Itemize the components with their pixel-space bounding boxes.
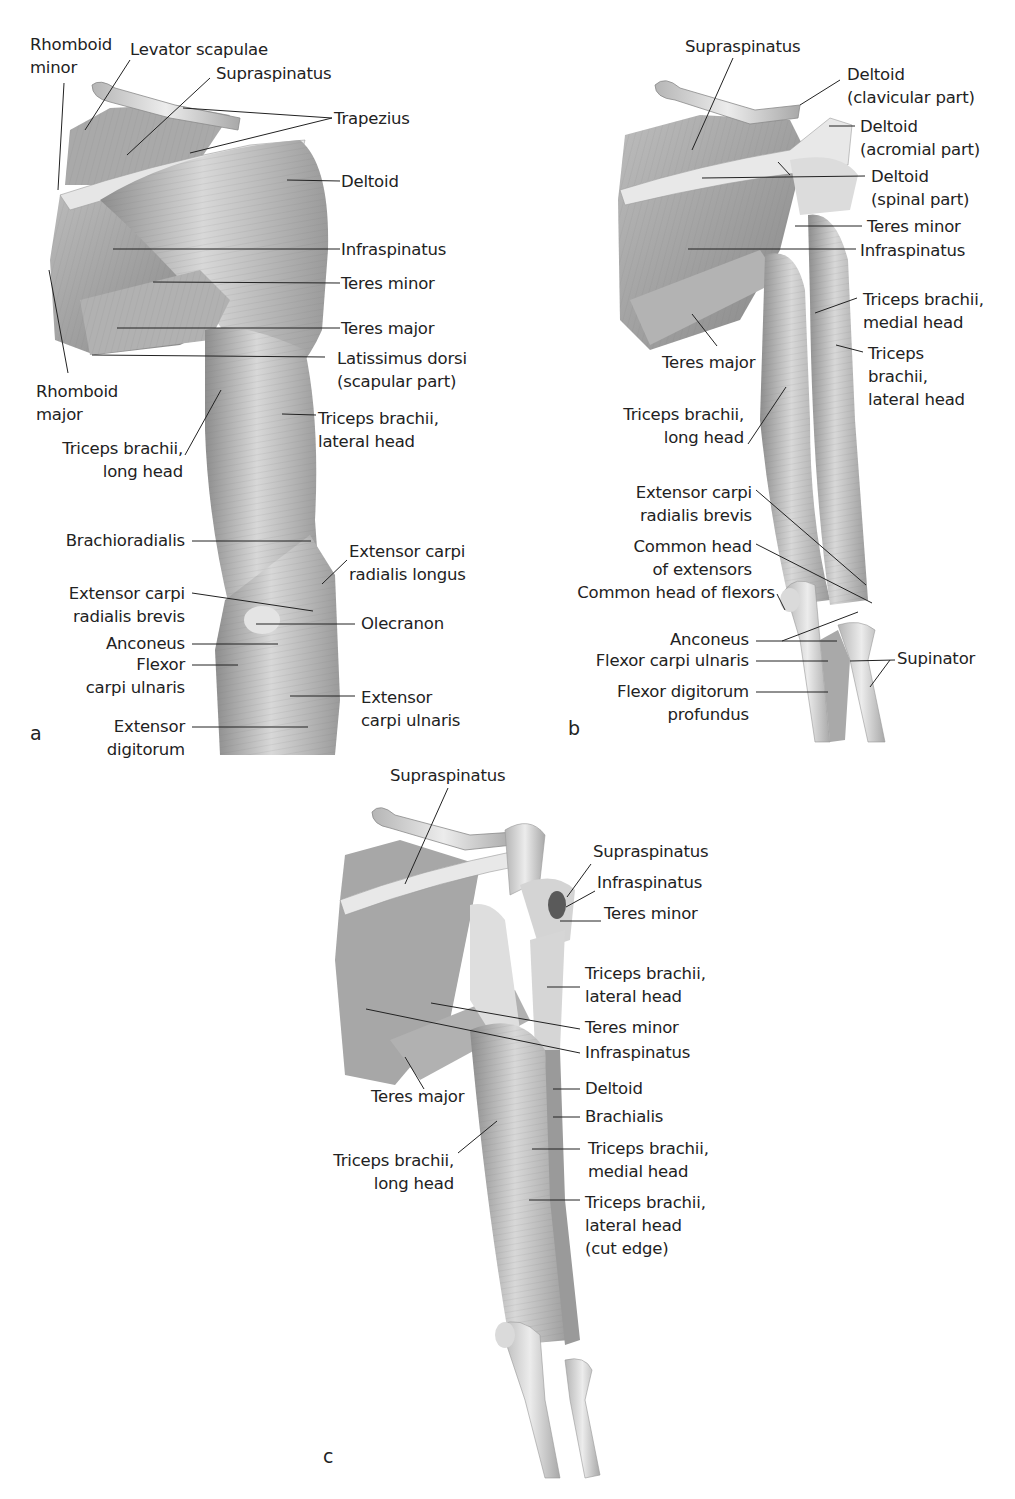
- label-c-supraspinatus: Supraspinatus: [593, 840, 708, 863]
- label-b-infraspinatus: Infraspinatus: [860, 239, 965, 262]
- label-a-teres-major: Teres major: [341, 317, 434, 340]
- label-a-extensor: Extensor digitorum: [107, 715, 185, 761]
- label-a-deltoid: Deltoid: [341, 170, 399, 193]
- label-b-deltoid: Deltoid (clavicular part): [847, 63, 975, 109]
- label-c-brachialis: Brachialis: [585, 1105, 663, 1128]
- label-c-deltoid: Deltoid: [585, 1077, 643, 1100]
- panel-letter-a: a: [30, 722, 42, 744]
- label-b-teres-minor: Teres minor: [867, 215, 961, 238]
- panel-letter-c: c: [323, 1445, 333, 1467]
- label-c-triceps-brachii: Triceps brachii, medial head: [588, 1137, 709, 1183]
- label-c-triceps-brachii: Triceps brachii, lateral head (cut edge): [585, 1191, 706, 1260]
- label-c-teres-minor: Teres minor: [604, 902, 698, 925]
- label-a-brachioradialis: Brachioradialis: [66, 529, 185, 552]
- label-b-anconeus: Anconeus: [670, 628, 749, 651]
- label-c-teres-major: Teres major: [371, 1085, 464, 1108]
- label-a-rhomboid: Rhomboid minor: [30, 33, 112, 79]
- label-b-triceps-brachii: Triceps brachii, medial head: [863, 288, 984, 334]
- label-b-deltoid: Deltoid (spinal part): [871, 165, 969, 211]
- label-b-common-head: Common head of extensors: [633, 535, 752, 581]
- label-c-infraspinatus: Infraspinatus: [585, 1041, 690, 1064]
- panel-c-drawing: [335, 808, 600, 1478]
- label-a-levator-scapulae: Levator scapulae: [130, 38, 268, 61]
- label-c-infraspinatus: Infraspinatus: [597, 871, 702, 894]
- label-b-common-head-of-flexors: Common head of flexors: [577, 581, 775, 604]
- label-b-flexor-digitorum: Flexor digitorum profundus: [617, 680, 749, 726]
- label-c-teres-minor: Teres minor: [585, 1016, 679, 1039]
- label-a-infraspinatus: Infraspinatus: [341, 238, 446, 261]
- label-c-triceps-brachii: Triceps brachii, long head: [333, 1149, 454, 1195]
- label-a-rhomboid: Rhomboid major: [36, 380, 118, 426]
- label-a-teres-minor: Teres minor: [341, 272, 435, 295]
- label-b-triceps: Triceps brachii, lateral head: [868, 342, 965, 411]
- label-a-triceps-brachii: Triceps brachii, lateral head: [318, 407, 439, 453]
- label-b-extensor-carpi: Extensor carpi radialis brevis: [636, 481, 752, 527]
- label-a-extensor-carpi: Extensor carpi radialis brevis: [69, 582, 185, 628]
- label-b-supinator: Supinator: [897, 647, 975, 670]
- label-c-supraspinatus: Supraspinatus: [390, 764, 505, 787]
- label-a-supraspinatus: Supraspinatus: [216, 62, 331, 85]
- label-a-extensor: Extensor carpi ulnaris: [361, 686, 460, 732]
- label-b-teres-major: Teres major: [662, 351, 755, 374]
- panel-letter-b: b: [568, 717, 580, 739]
- label-b-supraspinatus: Supraspinatus: [685, 35, 800, 58]
- label-a-triceps-brachii: Triceps brachii, long head: [62, 437, 183, 483]
- label-a-flexor: Flexor carpi ulnaris: [86, 653, 185, 699]
- label-a-extensor-carpi: Extensor carpi radialis longus: [349, 540, 466, 586]
- label-c-triceps-brachii: Triceps brachii, lateral head: [585, 962, 706, 1008]
- label-a-trapezius: Trapezius: [334, 107, 410, 130]
- label-b-triceps-brachii: Triceps brachii, long head: [623, 403, 744, 449]
- label-b-flexor-carpi-ulnaris: Flexor carpi ulnaris: [596, 649, 749, 672]
- label-a-olecranon: Olecranon: [361, 612, 444, 635]
- label-a-latissimus-dorsi: Latissimus dorsi (scapular part): [337, 347, 467, 393]
- label-b-deltoid: Deltoid (acromial part): [860, 115, 980, 161]
- label-a-anconeus: Anconeus: [106, 632, 185, 655]
